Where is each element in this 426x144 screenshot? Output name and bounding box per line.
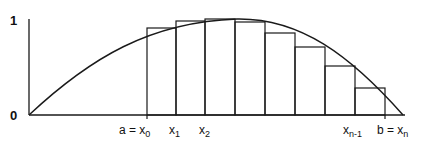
x-label-xn-1: xn-1 [343,123,362,139]
rectangle-1 [147,28,176,115]
rectangle-4 [235,22,265,115]
x-label-x1: x1 [169,123,180,139]
rectangle-6 [295,47,325,115]
rectangle-5 [265,33,295,115]
x-label-a-x0: a = x0 [119,123,150,139]
rectangle-2 [176,21,205,115]
riemann-sum-diagram: 1 0 a = x0 x1 x2 xn-1 b = xn [0,0,426,144]
y-label-1: 1 [10,13,17,28]
y-label-0: 0 [10,108,17,123]
x-label-x2: x2 [199,123,210,139]
rectangle-7 [325,66,355,115]
rectangles [147,19,385,115]
function-curve [29,19,403,115]
rectangle-3 [205,19,235,115]
rectangle-8 [355,88,385,115]
x-label-b-xn: b = xn [377,123,408,139]
